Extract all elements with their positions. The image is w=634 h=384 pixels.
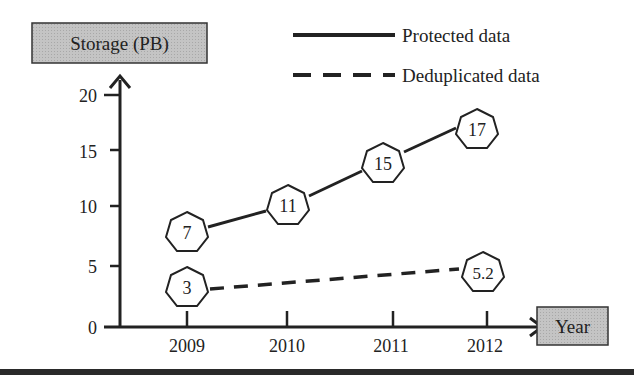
marker-deduplicated-2012: 5.2 [462,252,504,291]
y-tick-5: 5 [88,257,97,277]
x-tick-2010: 2010 [269,336,305,356]
chart-canvas: Storage (PB) Protected data Deduplicated… [0,0,634,384]
svg-text:5.2: 5.2 [472,264,493,283]
x-tick-2009: 2009 [169,336,205,356]
series-protected [208,128,456,227]
marker-protected-2009: 7 [166,212,208,251]
svg-text:7: 7 [183,223,192,243]
y-tick-20: 20 [79,86,97,106]
svg-text:11: 11 [279,196,296,216]
svg-text:17: 17 [468,120,486,140]
y-tick-10: 10 [79,197,97,217]
bottom-rule [0,369,634,375]
y-axis-title: Storage (PB) [70,33,169,55]
legend-label-protected: Protected data [402,25,511,46]
y-tick-15: 15 [79,142,97,162]
y-tick-0: 0 [88,318,97,338]
y-axis-title-box: Storage (PB) [32,23,207,63]
x-axis-title: Year [555,316,591,337]
x-tick-2011: 2011 [373,336,408,356]
marker-protected-2011: 15 [362,143,404,182]
x-tick-2012: 2012 [467,336,503,356]
legend: Protected data Deduplicated data [293,25,540,86]
marker-deduplicated-2009: 3 [166,267,208,306]
marker-protected-2012: 17 [456,109,498,148]
svg-text:3: 3 [183,278,192,298]
x-axis: 2009 2010 2011 2012 [104,311,542,356]
marker-protected-2010: 11 [267,185,309,224]
svg-text:15: 15 [374,154,392,174]
x-axis-title-box: Year [537,307,608,345]
legend-label-deduplicated: Deduplicated data [402,65,540,86]
y-axis: 20 15 10 5 0 [79,76,130,338]
series-deduplicated [210,269,459,289]
